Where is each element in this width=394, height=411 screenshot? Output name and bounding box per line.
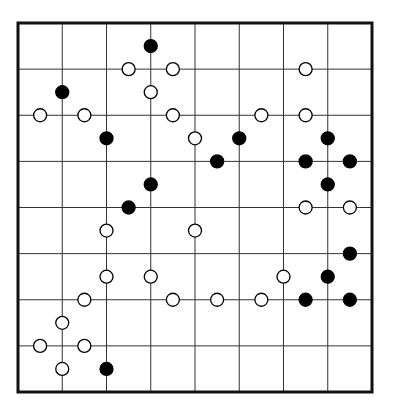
white-circle-icon [299, 109, 312, 122]
black-circle-icon [299, 155, 312, 168]
white-circle-icon [299, 63, 312, 76]
black-circle-icon [343, 293, 356, 306]
white-circle-icon [166, 293, 179, 306]
white-circle-icon [100, 224, 113, 237]
black-circle-icon [233, 132, 246, 145]
white-circle-icon [189, 132, 202, 145]
white-circle-icon [255, 293, 268, 306]
black-circle-icon [100, 362, 113, 375]
black-circle-icon [343, 155, 356, 168]
white-circle-icon [144, 270, 157, 283]
white-circle-icon [255, 109, 268, 122]
black-circle-icon [321, 132, 334, 145]
grid-lines [18, 23, 372, 392]
white-circle-icon [78, 339, 91, 352]
black-circle-icon [321, 270, 334, 283]
white-circle-icon [34, 109, 47, 122]
white-circle-icon [189, 224, 202, 237]
black-circle-icon [299, 293, 312, 306]
puzzle-board[interactable] [0, 0, 394, 411]
white-circle-icon [122, 63, 135, 76]
white-circle-icon [78, 109, 91, 122]
black-circle-icon [211, 155, 224, 168]
black-circle-icon [343, 247, 356, 260]
black-circle-icon [321, 178, 334, 191]
white-circle-icon [144, 86, 157, 99]
white-circle-icon [56, 316, 69, 329]
black-circle-icon [100, 132, 113, 145]
black-circle-icon [56, 86, 69, 99]
white-circle-icon [211, 293, 224, 306]
white-circle-icon [34, 339, 47, 352]
black-circle-icon [144, 40, 157, 53]
white-circle-icon [277, 270, 290, 283]
white-circle-icon [78, 293, 91, 306]
white-circle-icon [100, 270, 113, 283]
black-circle-icon [144, 178, 157, 191]
white-circle-icon [56, 362, 69, 375]
white-circle-icon [343, 201, 356, 214]
black-circle-icon [122, 201, 135, 214]
white-circle-icon [166, 109, 179, 122]
white-circle-icon [299, 201, 312, 214]
white-circle-icon [166, 63, 179, 76]
